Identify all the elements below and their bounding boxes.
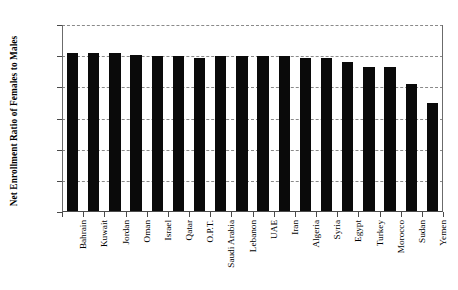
x-tick-label: Sudan	[416, 220, 429, 243]
x-tick-label: Egypt	[352, 220, 365, 242]
x-tick-label: Oman	[141, 220, 154, 242]
x-tick-label: Turkey	[374, 220, 387, 246]
y-tick-mark	[57, 56, 62, 57]
x-tick-label: UAE	[268, 220, 281, 239]
x-tick-label: Lebanon	[247, 220, 260, 252]
x-tick-mark	[358, 212, 359, 217]
x-tick-mark	[443, 212, 444, 217]
y-tick-mark	[57, 25, 62, 26]
x-tick-mark	[295, 212, 296, 217]
x-tick-label: O.P.T.	[204, 220, 217, 243]
x-tick-label: Qatar	[183, 220, 196, 240]
x-tick-label: Bahrain	[77, 220, 90, 249]
x-tick-mark	[62, 212, 63, 217]
x-tick-label: Syria	[331, 220, 344, 239]
y-tick-mark	[57, 87, 62, 88]
x-axis-ticks: BahrainKuwaitJordanOmanIsraelQatarO.P.T.…	[62, 212, 443, 290]
x-tick-label: Yemen	[437, 220, 450, 246]
x-tick-label: Saudi Arabia	[225, 220, 238, 268]
y-tick-mark	[57, 119, 62, 120]
x-tick-mark	[126, 212, 127, 217]
plot-area	[62, 25, 443, 212]
plot-frame	[62, 25, 443, 212]
x-tick-label: Morocco	[395, 220, 408, 253]
x-tick-mark	[422, 212, 423, 217]
x-tick-mark	[380, 212, 381, 217]
x-tick-mark	[401, 212, 402, 217]
y-tick-mark	[57, 150, 62, 151]
x-tick-mark	[231, 212, 232, 217]
y-tick-mark	[57, 181, 62, 182]
bar-chart: Net Enrollment Ratio of Females to Males…	[0, 0, 458, 290]
y-axis-title: Net Enrollment Ratio of Females to Males	[6, 16, 22, 226]
x-tick-mark	[189, 212, 190, 217]
x-tick-label: Jordan	[120, 220, 133, 245]
x-tick-mark	[274, 212, 275, 217]
x-tick-label: Algeria	[310, 220, 323, 248]
x-tick-mark	[83, 212, 84, 217]
x-tick-mark	[316, 212, 317, 217]
x-tick-mark	[168, 212, 169, 217]
x-tick-mark	[210, 212, 211, 217]
x-tick-label: Israel	[162, 220, 175, 240]
x-tick-label: Iran	[289, 220, 302, 235]
x-tick-mark	[253, 212, 254, 217]
x-tick-label: Kuwait	[98, 220, 111, 247]
x-tick-mark	[104, 212, 105, 217]
x-tick-mark	[337, 212, 338, 217]
x-tick-mark	[147, 212, 148, 217]
